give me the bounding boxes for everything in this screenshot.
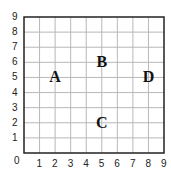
point-label-a: A	[49, 69, 61, 85]
y-tick-label: 3	[12, 103, 18, 113]
x-tick-label: 7	[130, 159, 136, 169]
point-label-c: C	[96, 115, 108, 131]
y-tick-label: 8	[12, 27, 18, 37]
y-tick-label: 7	[12, 42, 18, 52]
x-tick-label: 4	[83, 159, 89, 169]
y-tick-label: 1	[12, 133, 18, 143]
y-tick-label: 5	[12, 72, 18, 82]
origin-label: 0	[14, 156, 20, 166]
y-tick-label: 6	[12, 57, 18, 67]
y-tick-label: 9	[12, 12, 18, 22]
x-tick-label: 3	[68, 159, 74, 169]
point-label-b: B	[96, 54, 107, 70]
x-tick-label: 9	[161, 159, 167, 169]
y-tick-label: 2	[12, 118, 18, 128]
x-tick-label: 2	[52, 159, 58, 169]
x-tick-label: 5	[99, 159, 105, 169]
coordinate-grid-diagram: 0 123456789 123456789 ABCD	[0, 0, 171, 176]
x-tick-label: 8	[145, 159, 151, 169]
y-tick-label: 4	[12, 88, 18, 98]
x-tick-label: 1	[37, 159, 43, 169]
grid	[0, 0, 171, 176]
x-tick-label: 6	[114, 159, 120, 169]
point-label-d: D	[143, 69, 155, 85]
